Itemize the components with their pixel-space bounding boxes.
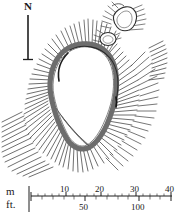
scale-tick-ft-100: 100: [131, 203, 145, 212]
site-plan-figure: [0, 0, 180, 217]
rampart-east-scarp: [116, 97, 117, 107]
scale-unit-feet: ft.: [6, 199, 15, 210]
hut-circle: [100, 33, 116, 46]
scale-tick-m-20: 20: [95, 185, 104, 194]
scale-tick-m-10: 10: [60, 185, 69, 194]
scale-unit-metres: m: [6, 186, 15, 197]
scale-tick-m-40: 40: [165, 185, 174, 194]
scale-tick-ft-50: 50: [79, 203, 88, 212]
north-arrow-label: N: [20, 1, 36, 12]
scale-tick-m-30: 30: [130, 185, 139, 194]
